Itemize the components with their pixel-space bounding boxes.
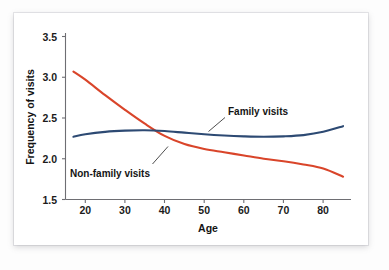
- x-tick-label-0: 20: [79, 204, 91, 216]
- y-tick-labels: 3.5 3.0 2.5 2.0 1.5: [42, 31, 57, 206]
- y-tick-label-0: 1.5: [42, 194, 57, 206]
- x-axis-title: Age: [198, 222, 218, 234]
- series-lines: [73, 72, 343, 177]
- x-tick-label-5: 70: [278, 204, 290, 216]
- x-tick-labels: 20 30 40 50 60 70 80: [79, 204, 329, 216]
- callout-leaders: [153, 118, 226, 165]
- x-tick-label-6: 80: [317, 204, 329, 216]
- x-tick-label-4: 60: [238, 204, 250, 216]
- y-tick-label-2: 2.5: [42, 112, 57, 124]
- family-visits-leader-line: [209, 118, 226, 132]
- series-line-family-visits: [73, 126, 343, 137]
- x-tick-label-1: 30: [119, 204, 131, 216]
- line-chart: 3.5 3.0 2.5 2.0 1.5 20 30 40 50 60 70 80: [0, 0, 389, 270]
- series-line-non-family-visits: [73, 72, 343, 177]
- figure-root: 3.5 3.0 2.5 2.0 1.5 20 30 40 50 60 70 80: [0, 0, 389, 270]
- y-tick-label-3: 3.0: [42, 71, 57, 83]
- non-family-visits-leader-line: [153, 147, 169, 165]
- x-tick-label-2: 40: [159, 204, 171, 216]
- y-tick-label-4: 3.5: [42, 31, 57, 43]
- y-tick-label-1: 2.0: [42, 153, 57, 165]
- non-family-visits-label: Non-family visits: [70, 168, 150, 179]
- x-tick-label-3: 50: [198, 204, 210, 216]
- y-axis-title: Frequency of visits: [24, 69, 36, 165]
- family-visits-label: Family visits: [228, 106, 288, 117]
